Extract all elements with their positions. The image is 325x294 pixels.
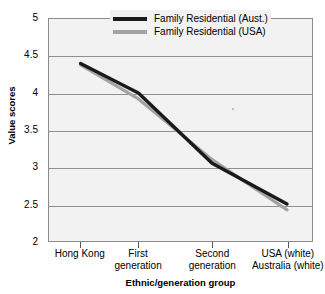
y-axis-tick-labels: 54.543.532.52 [0,0,44,260]
y-tick-label: 5 [32,13,38,23]
legend-item-aust: Family Residential (Aust.) [113,12,268,25]
x-tick-label: USA (white) Australia (white) [240,248,325,271]
y-tick-label: 4.5 [24,50,38,60]
line-chart-figure: Value scores 54.543.532.52 Family Reside… [0,0,325,294]
chart-legend: Family Residential (Aust.) Family Reside… [110,10,271,40]
y-tick-label: 3.5 [24,125,38,135]
legend-swatch-aust [113,17,147,21]
legend-label-aust: Family Residential (Aust.) [154,13,268,24]
legend-label-usa: Family Residential (USA) [154,26,266,37]
y-tick-label: 3 [32,162,38,172]
x-axis-tick-labels: Hong KongFirst generationSecond generati… [0,248,325,274]
y-tick-label: 4 [32,88,38,98]
scan-artifact-speck [232,108,234,110]
legend-item-usa: Family Residential (USA) [113,25,268,38]
y-tick-label: 2 [32,237,38,247]
x-axis-title: Ethnic/generation group [48,277,313,288]
legend-swatch-usa [113,30,147,34]
series-lines [49,19,312,241]
y-tick-label: 2.5 [24,200,38,210]
plot-area [48,18,313,242]
